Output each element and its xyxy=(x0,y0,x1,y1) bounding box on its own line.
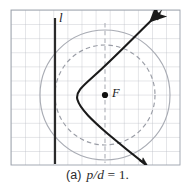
figure-caption: (a)p/d = 1. xyxy=(0,167,195,183)
focus-label: F xyxy=(112,86,120,101)
figure-container: l F (a)p/d = 1. xyxy=(0,0,195,190)
caption-part-label: (a) xyxy=(66,168,82,182)
directrix-label: l xyxy=(59,10,63,26)
caption-ratio: p/d xyxy=(87,167,105,182)
caption-part-equation: p/d = 1. xyxy=(82,167,130,182)
conic-construction-figure xyxy=(0,0,195,190)
graph-grid xyxy=(11,10,180,165)
caption-relation: = 1. xyxy=(104,167,129,182)
focus-point-dot xyxy=(102,92,108,98)
